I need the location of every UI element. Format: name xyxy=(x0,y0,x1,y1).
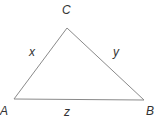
vertex-label-a: A xyxy=(0,105,8,117)
side-label-z: z xyxy=(64,106,70,118)
vertex-label-b: B xyxy=(146,105,154,117)
triangle-diagram xyxy=(0,0,155,121)
side-label-y: y xyxy=(113,46,119,58)
vertex-label-c: C xyxy=(62,4,71,16)
side-label-x: x xyxy=(29,46,35,58)
triangle-abc xyxy=(14,28,144,100)
